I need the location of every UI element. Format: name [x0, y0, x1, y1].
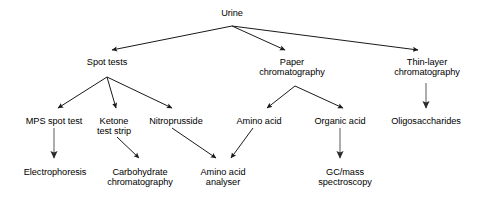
node-ketone-strip[interactable]: Ketone test strip	[97, 116, 131, 137]
node-label-urine: Urine	[221, 8, 243, 18]
node-label-paper-chrom: Paper chromatography	[259, 57, 325, 78]
node-label-amino-acid: Amino acid	[237, 116, 282, 126]
node-urine[interactable]: Urine	[221, 8, 243, 18]
edge-spot-tests-to-ketone	[107, 77, 116, 108]
edge-spot-tests-to-nitroprusside	[107, 77, 172, 108]
node-nitroprusside[interactable]: Nitroprusside	[149, 116, 202, 126]
edge-paper-chrom-to-organic-acid	[295, 86, 343, 108]
edge-urine-to-thin-layer	[232, 26, 418, 50]
edge-ketone-to-carbohydrate	[117, 137, 139, 158]
node-label-electrophoresis: Electrophoresis	[24, 167, 87, 177]
edge-spot-tests-to-mps	[58, 77, 107, 108]
node-mps-spot-test[interactable]: MPS spot test	[26, 116, 83, 126]
flowchart-diagram: UrineSpot testsPaper chromatographyThin-…	[0, 0, 482, 202]
node-label-aa-analyser: Amino acid analyser	[201, 167, 246, 188]
edges-group	[54, 26, 426, 158]
edge-amino-acid-to-aa-analyser	[231, 128, 253, 158]
edge-urine-to-spot-tests	[112, 26, 232, 50]
node-paper-chrom[interactable]: Paper chromatography	[259, 57, 325, 78]
node-label-mps-spot-test: MPS spot test	[26, 116, 83, 126]
node-spot-tests[interactable]: Spot tests	[87, 57, 127, 67]
node-oligosaccharides[interactable]: Oligosaccharides	[391, 116, 461, 126]
node-label-carbohydrate: Carbohydrate chromatography	[107, 167, 173, 188]
node-label-gc-mass: GC/mass spectroscopy	[318, 167, 372, 188]
node-label-ketone-strip: Ketone test strip	[97, 116, 131, 137]
node-amino-acid[interactable]: Amino acid	[237, 116, 282, 126]
edge-nitroprusside-to-aa-analyser	[172, 128, 216, 158]
node-carbohydrate[interactable]: Carbohydrate chromatography	[107, 167, 173, 188]
node-label-spot-tests: Spot tests	[87, 57, 127, 67]
node-label-nitroprusside: Nitroprusside	[149, 116, 202, 126]
node-electrophoresis[interactable]: Electrophoresis	[24, 167, 87, 177]
node-gc-mass[interactable]: GC/mass spectroscopy	[318, 167, 372, 188]
node-aa-analyser[interactable]: Amino acid analyser	[201, 167, 246, 188]
edge-paper-chrom-to-amino-acid	[267, 86, 295, 108]
node-label-oligosaccharides: Oligosaccharides	[391, 116, 461, 126]
node-label-organic-acid: Organic acid	[315, 116, 366, 126]
node-thin-layer[interactable]: Thin-layer chromatography	[394, 57, 460, 78]
node-organic-acid[interactable]: Organic acid	[315, 116, 366, 126]
node-label-thin-layer: Thin-layer chromatography	[394, 57, 460, 78]
